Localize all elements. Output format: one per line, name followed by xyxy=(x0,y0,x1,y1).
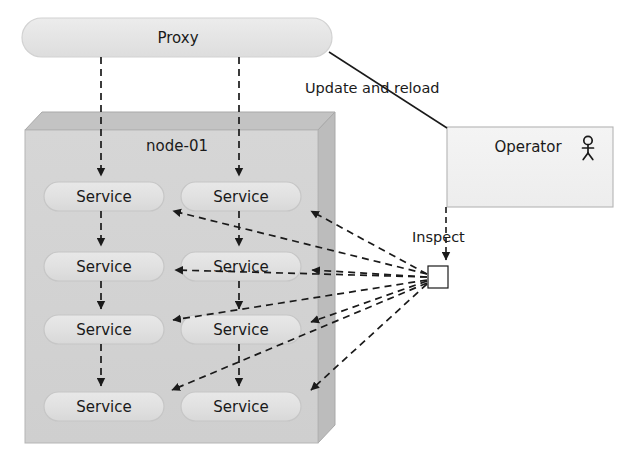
service-node-label: Service xyxy=(213,188,268,206)
service-node-svc-r2c2[interactable]: Service xyxy=(181,252,301,281)
service-node-svc-r2c1[interactable]: Service xyxy=(44,252,164,281)
service-node-svc-r1c1[interactable]: Service xyxy=(44,182,164,211)
service-node-svc-r4c2[interactable]: Service xyxy=(181,392,301,421)
edge-label-inspect: Inspect xyxy=(412,229,465,245)
node-container-label: node-01 xyxy=(146,137,208,155)
service-node-label: Service xyxy=(76,258,131,276)
inspect-point-node[interactable] xyxy=(428,266,448,288)
service-node-svc-r3c1[interactable]: Service xyxy=(44,315,164,344)
inspect-point-shape xyxy=(428,266,448,288)
proxy-node-label: Proxy xyxy=(157,29,198,47)
proxy-node[interactable]: Proxy xyxy=(22,18,332,57)
service-node-label: Service xyxy=(76,321,131,339)
service-node-label: Service xyxy=(213,321,268,339)
service-node-label: Service xyxy=(76,398,131,416)
node-box-side-face xyxy=(318,112,335,443)
service-node-label: Service xyxy=(213,398,268,416)
service-node-svc-r4c1[interactable]: Service xyxy=(44,392,164,421)
service-node-label: Service xyxy=(76,188,131,206)
service-node-label: Service xyxy=(213,258,268,276)
operator-node[interactable]: Operator xyxy=(447,127,613,207)
operator-node-label: Operator xyxy=(494,138,562,156)
diagram-canvas: node-01 Service Service Service Service … xyxy=(0,0,633,467)
node-box-top-face xyxy=(25,112,335,130)
architecture-diagram: node-01 Service Service Service Service … xyxy=(0,0,633,467)
service-node-svc-r3c2[interactable]: Service xyxy=(181,315,301,344)
edge-label-update-and-reload: Update and reload xyxy=(305,80,440,96)
edge-operator-to-inspect: Inspect xyxy=(412,207,465,260)
service-node-svc-r1c2[interactable]: Service xyxy=(181,182,301,211)
